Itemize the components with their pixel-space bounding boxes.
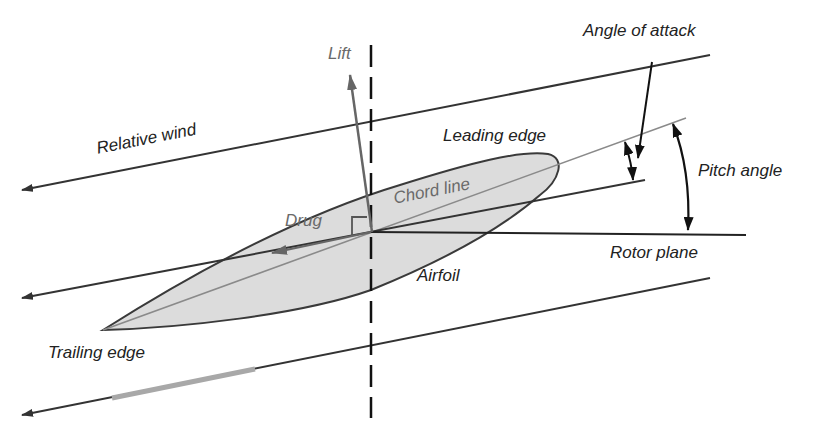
relative-wind-line-top: [22, 55, 710, 190]
drag-label: Drug: [285, 212, 322, 229]
pitch-angle-label: Pitch angle: [698, 162, 782, 179]
trailing-edge-label: Trailing edge: [48, 344, 145, 361]
chord-line: [103, 118, 686, 330]
airfoil-diagram: [0, 0, 823, 429]
rotor-plane-label: Rotor plane: [610, 244, 698, 261]
pitch-angle-arc: [673, 124, 688, 230]
angle-of-attack-pointer: [638, 62, 652, 158]
angle-of-attack-arc: [625, 142, 633, 180]
angle-of-attack-label: Angle of attack: [583, 22, 695, 39]
airfoil-label: Airfoil: [417, 267, 460, 284]
airfoil-shape: [103, 153, 559, 330]
relative-wind-highlight-segment: [112, 369, 255, 398]
lift-label: Lift: [328, 45, 351, 62]
leading-edge-label: Leading edge: [443, 127, 546, 144]
